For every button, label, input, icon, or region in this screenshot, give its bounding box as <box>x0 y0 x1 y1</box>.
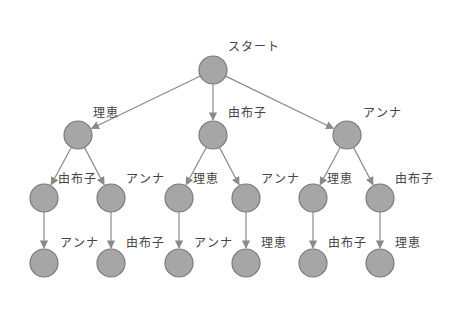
edge-arrow <box>219 147 239 184</box>
node-label: 由布子 <box>58 172 97 186</box>
edge-arrow <box>226 76 334 128</box>
node-label: アンナ <box>363 106 402 120</box>
node-label: 由布子 <box>126 236 165 250</box>
tree-node-root <box>199 56 227 84</box>
node-label: 理恵 <box>193 172 219 186</box>
tree-node-a <box>64 121 92 149</box>
edge-arrow <box>92 76 201 128</box>
node-label: 由布子 <box>228 106 267 120</box>
tree-node-c2x <box>366 249 394 277</box>
tree-node-a2 <box>97 184 125 212</box>
node-label: アンナ <box>194 236 233 250</box>
node-label: アンナ <box>126 172 165 186</box>
tree-node-a1x <box>30 249 58 277</box>
tree-node-c2 <box>366 184 394 212</box>
tree-node-b1 <box>165 184 193 212</box>
node-label: 由布子 <box>328 236 367 250</box>
tree-node-c1x <box>299 249 327 277</box>
node-label: 理恵 <box>395 236 421 250</box>
tree-node-b2x <box>232 249 260 277</box>
node-label: 理恵 <box>93 106 119 120</box>
tree-node-b2 <box>232 184 260 212</box>
node-label: 理恵 <box>327 172 353 186</box>
node-label: スタート <box>228 40 280 54</box>
tree-node-c1 <box>299 184 327 212</box>
tree-node-c <box>333 121 361 149</box>
edge-arrow <box>353 147 373 184</box>
node-label: 由布子 <box>395 172 434 186</box>
tree-node-b <box>199 121 227 149</box>
edges <box>44 76 380 248</box>
node-label: アンナ <box>60 236 99 250</box>
tree-node-a2x <box>97 249 125 277</box>
node-label: アンナ <box>261 172 300 186</box>
tree-node-a1 <box>30 184 58 212</box>
tree-node-b1x <box>165 249 193 277</box>
node-label: 理恵 <box>261 236 287 250</box>
